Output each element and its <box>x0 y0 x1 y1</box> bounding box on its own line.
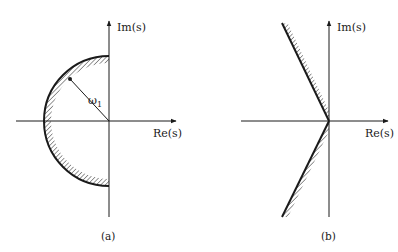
upper-boundary-ray <box>282 23 329 121</box>
x-axis-label-a: Re(s) <box>153 127 182 140</box>
radius-label: ω1 <box>88 94 102 109</box>
x-axis-label-b: Re(s) <box>365 127 394 140</box>
figure-canvas: Im(s) Re(s) ω1 (a) Im(s) Re(s) (b) <box>0 0 398 252</box>
y-axis-label-b: Im(s) <box>337 21 366 34</box>
caption-a: (a) <box>101 230 115 242</box>
caption-b: (b) <box>321 230 336 242</box>
radius-endpoint-dot <box>68 77 72 81</box>
panel-a: Im(s) Re(s) ω1 (a) <box>16 21 182 242</box>
panel-b: Im(s) Re(s) (b) <box>241 21 394 242</box>
lower-boundary-ray <box>282 121 329 217</box>
y-axis-label-a: Im(s) <box>117 21 146 34</box>
